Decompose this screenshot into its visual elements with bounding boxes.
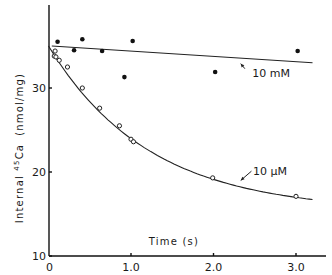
chart: 102030 Internal 45Ca(nmol/mg) 01.02.03.0…	[0, 0, 332, 275]
series-label: 10 mM	[252, 67, 290, 80]
data-point-open	[65, 65, 69, 69]
data-point-filled	[80, 37, 85, 42]
data-point-filled	[122, 75, 127, 80]
data-point-open	[53, 49, 57, 53]
plot-area: 10 mM10 μM	[49, 37, 313, 200]
x-tick-label: 1.0	[122, 261, 140, 274]
series-10mm: 10 mM	[52, 37, 313, 80]
data-point-open	[80, 86, 84, 90]
data-point-open	[131, 140, 135, 144]
data-point-open	[117, 124, 121, 128]
y-axis-label-prefix: Internal	[14, 171, 25, 224]
data-point-open	[57, 58, 61, 62]
data-point-filled	[100, 49, 105, 54]
x-tick-label: 3.0	[287, 261, 305, 274]
x-axis: 01.02.03.0 Time (s)	[46, 236, 326, 274]
data-point-open	[54, 55, 58, 59]
y-axis-label-element: Ca	[14, 144, 25, 160]
data-point-open	[211, 176, 215, 180]
data-point-filled	[72, 48, 77, 53]
data-point-open	[294, 194, 298, 198]
data-point-filled	[213, 70, 218, 75]
y-axis-label-superscript: 45	[13, 159, 21, 170]
y-tick-label: 20	[32, 166, 46, 179]
y-tick-label: 10	[32, 250, 46, 263]
x-axis-label: Time (s)	[148, 236, 199, 247]
y-axis: 102030 Internal 45Ca(nmol/mg)	[13, 5, 52, 263]
x-tick-label: 2.0	[205, 261, 223, 274]
data-point-filled	[55, 40, 60, 45]
data-point-open	[98, 106, 102, 110]
y-axis-label: Internal 45Ca(nmol/mg)	[13, 73, 25, 223]
fit-line	[52, 46, 313, 63]
y-axis-label-units: (nmol/mg)	[14, 73, 25, 136]
data-point-filled	[130, 39, 135, 44]
x-tick-label: 0	[46, 261, 53, 274]
series-label: 10 μM	[253, 165, 287, 178]
y-tick-label: 30	[32, 82, 46, 95]
data-point-filled	[295, 49, 300, 54]
